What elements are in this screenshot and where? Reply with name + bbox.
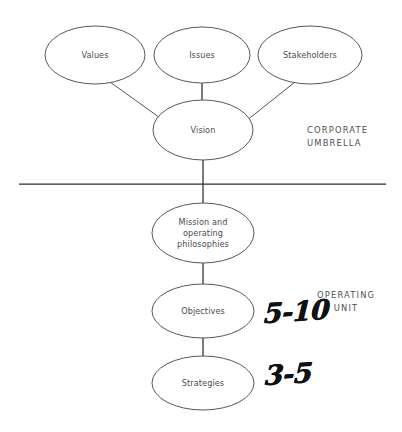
- node-issues[interactable]: Issues: [154, 27, 250, 83]
- diagram-canvas: Values Issues Stakeholders Vision Missio…: [0, 0, 402, 432]
- node-label-values: Values: [81, 50, 108, 60]
- edge-values-to-vision: [110, 82, 163, 120]
- edge-stakeholders-to-vision: [246, 82, 295, 121]
- node-mission[interactable]: Mission andoperatingphilosophies: [152, 203, 254, 263]
- node-label-mission: Mission andoperatingphilosophies: [177, 216, 229, 248]
- node-label-issues: Issues: [189, 50, 215, 60]
- node-objectives[interactable]: Objectives: [152, 284, 254, 338]
- handwritten-annotation-objectives-range: 5-10: [263, 295, 330, 327]
- node-vision[interactable]: Vision: [153, 100, 253, 160]
- node-label-strategies: Strategies: [182, 378, 224, 388]
- node-label-vision: Vision: [191, 125, 216, 135]
- zone-label-corporate-umbrella: CORPORATE UMBRELLA: [307, 124, 368, 150]
- diagram-graphics: Values Issues Stakeholders Vision Missio…: [0, 0, 402, 432]
- node-label-objectives: Objectives: [181, 306, 225, 316]
- handwritten-annotation-strategies-range: 3-5: [264, 359, 313, 389]
- node-label-stakeholders: Stakeholders: [283, 50, 337, 60]
- node-values[interactable]: Values: [45, 26, 145, 84]
- node-strategies[interactable]: Strategies: [152, 356, 254, 410]
- node-stakeholders[interactable]: Stakeholders: [258, 26, 362, 84]
